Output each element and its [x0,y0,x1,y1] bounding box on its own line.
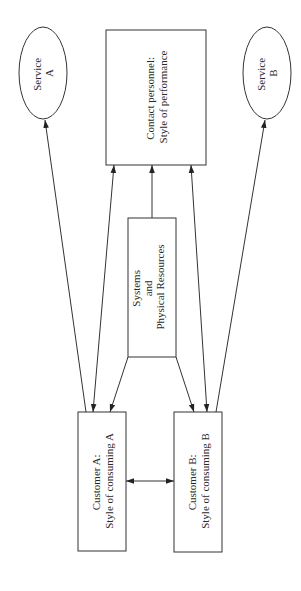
node-customer-b: Customer B: Style of consuming B [174,412,222,552]
edge-systems-to-customer-b [176,357,194,412]
customer-a-line1: Customer A: [90,454,102,510]
edge-customer-a-contact [93,165,114,412]
node-service-b: Service B [243,27,291,119]
service-a-line2: A [43,69,55,77]
node-customer-a: Customer A: Style of consuming A [78,412,126,551]
edge-customer-b-contact [191,165,207,412]
customer-a-line2: Style of consuming A [103,433,115,529]
customer-b-line1: Customer B: [186,454,198,510]
node-service-a: Service A [19,27,67,119]
contact-line2: Style of performance [157,50,169,143]
svg-text:Contact personnel: Style: Contact personnel: Style of performance [144,50,169,143]
service-a-line1: Service [31,58,43,91]
service-b-line1: Service [255,58,267,91]
diagram-canvas: Service A Contact personnel: Style of pe… [0,0,301,591]
systems-line2: and [142,280,154,296]
edge-customer-b-to-service-b [216,120,265,412]
customer-b-line2: Style of consuming B [199,433,211,529]
service-b-line2: B [267,69,279,76]
node-systems-physical-resources: Systems and Physical Resources [128,218,176,357]
systems-line1: Systems [130,270,142,307]
systems-line3: Physical Resources [154,244,166,329]
contact-line1: Contact personnel: [144,57,156,140]
node-contact-personnel: Contact personnel: Style of performance [106,30,206,165]
edge-systems-to-customer-a [110,357,128,412]
edge-customer-a-to-service-a [45,120,86,412]
